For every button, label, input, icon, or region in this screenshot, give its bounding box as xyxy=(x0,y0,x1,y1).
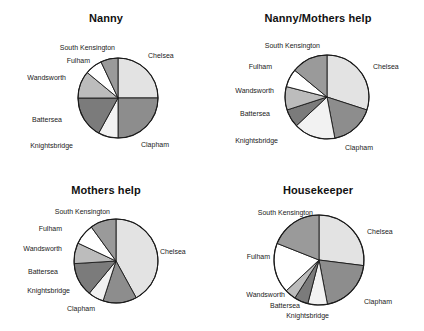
chart-title-housekeeper: Housekeeper xyxy=(212,184,424,196)
pie-label-clapham: Clapham xyxy=(364,298,392,306)
pie-label-clapham: Clapham xyxy=(141,141,169,149)
pie-label-chelsea: Chelsea xyxy=(148,52,174,60)
pie-label-fulham: Fulham xyxy=(0,57,90,65)
pie-label-wandsworth: Wandsworth xyxy=(212,291,285,299)
pie-svg-housekeeper xyxy=(273,214,365,306)
pie-chart-grid: Nanny Chelsea Clapham Knightsbridge Batt… xyxy=(0,0,424,331)
pie-housekeeper xyxy=(273,214,365,306)
pie-label-battersea: Battersea xyxy=(0,116,62,124)
pie-svg-nanny-mothers-help xyxy=(284,54,370,140)
pie-label-wandsworth: Wandsworth xyxy=(212,87,274,95)
pie-mothers-help xyxy=(73,218,159,304)
pie-label-battersea: Battersea xyxy=(212,302,300,310)
chart-panel-mothers-help: Mothers help Chelsea Clapham Knightsbrid… xyxy=(0,170,212,331)
chart-title-nanny-mothers-help: Nanny/Mothers help xyxy=(212,12,424,24)
chart-title-nanny: Nanny xyxy=(0,12,212,24)
pie-label-south-kensington: South Kensington xyxy=(212,209,313,217)
pie-nanny-mothers-help xyxy=(284,54,370,140)
pie-label-chelsea: Chelsea xyxy=(367,228,393,236)
pie-label-knightsbridge: Knightsbridge xyxy=(212,312,329,320)
pie-label-knightsbridge: Knightsbridge xyxy=(0,142,73,150)
pie-label-battersea: Battersea xyxy=(0,268,58,276)
pie-svg-mothers-help xyxy=(73,218,159,304)
pie-label-clapham: Clapham xyxy=(345,144,373,152)
pie-label-south-kensington: South Kensington xyxy=(0,208,110,216)
pie-label-knightsbridge: Knightsbridge xyxy=(0,287,70,295)
pie-slice xyxy=(118,58,158,98)
pie-label-wandsworth: Wandsworth xyxy=(0,74,66,82)
pie-label-fulham: Fulham xyxy=(0,225,62,233)
pie-slice xyxy=(319,215,364,266)
pie-label-south-kensington: South Kensington xyxy=(0,44,115,52)
pie-nanny xyxy=(77,57,159,139)
pie-slice xyxy=(118,98,158,138)
pie-label-wandsworth: Wandsworth xyxy=(0,245,62,253)
pie-label-chelsea: Chelsea xyxy=(373,63,399,71)
pie-svg-nanny xyxy=(77,57,159,139)
pie-label-fulham: Fulham xyxy=(212,63,272,71)
chart-panel-housekeeper: Housekeeper Chelsea Clapham Knightsbridg… xyxy=(212,170,424,331)
pie-label-chelsea: Chelsea xyxy=(160,248,186,256)
pie-label-clapham: Clapham xyxy=(0,305,95,313)
chart-panel-nanny: Nanny Chelsea Clapham Knightsbridge Batt… xyxy=(0,0,212,170)
pie-label-battersea: Battersea xyxy=(212,110,270,118)
chart-title-mothers-help: Mothers help xyxy=(0,184,212,196)
pie-label-fulham: Fulham xyxy=(212,253,270,261)
chart-panel-nanny-mothers-help: Nanny/Mothers help Chelsea Clapham Knigh… xyxy=(212,0,424,170)
pie-label-knightsbridge: Knightsbridge xyxy=(212,137,278,145)
pie-label-south-kensington: South Kensington xyxy=(212,42,320,50)
